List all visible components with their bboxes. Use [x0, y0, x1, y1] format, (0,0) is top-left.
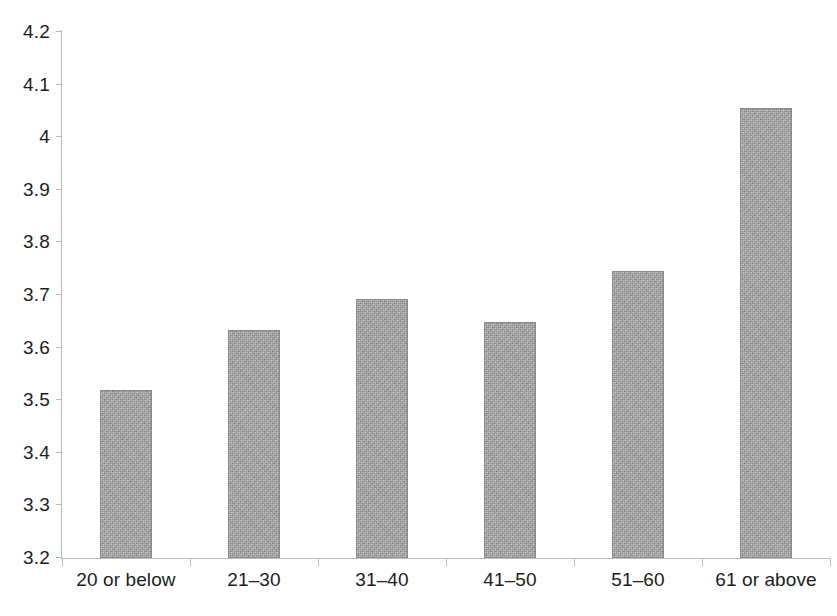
- plot-area: [62, 32, 830, 558]
- x-axis-tick-mark: [318, 558, 319, 566]
- x-axis-tick-label: 31–40: [318, 568, 446, 592]
- x-axis-tick-mark: [702, 558, 703, 566]
- x-axis-tick-label: 41–50: [446, 568, 574, 592]
- bar: [228, 330, 280, 558]
- x-axis-tick-label: 20 or below: [62, 568, 190, 592]
- x-axis-tick-mark: [190, 558, 191, 566]
- y-axis-tick-label: 3.6: [23, 336, 50, 359]
- x-axis-tick-label: 61 or above: [702, 568, 830, 592]
- y-axis-tick-label: 3.8: [23, 230, 50, 253]
- x-axis-tick-mark: [62, 558, 63, 566]
- y-axis-tick-label: 3.3: [23, 493, 50, 516]
- y-axis-tick-label: 3.7: [23, 283, 50, 306]
- bar: [740, 108, 792, 558]
- bar: [612, 271, 664, 558]
- y-axis-tick-label: 3.4: [23, 441, 50, 464]
- x-axis-tick-mark: [830, 558, 831, 566]
- y-axis-tick-label: 4.2: [23, 20, 50, 43]
- x-axis-tick-label: 51–60: [574, 568, 702, 592]
- x-axis-tick-mark: [446, 558, 447, 566]
- y-axis-tick-label: 4.1: [23, 73, 50, 96]
- x-axis-tick-label: 21–30: [190, 568, 318, 592]
- y-axis-tick-label: 3.5: [23, 388, 50, 411]
- bar: [356, 299, 408, 558]
- y-axis-tick-label: 3.9: [23, 178, 50, 201]
- bar: [100, 390, 152, 558]
- x-axis-tick-mark: [574, 558, 575, 566]
- bar-chart-figure: 3.23.33.43.53.63.73.83.944.14.2 20 or be…: [0, 0, 837, 616]
- y-axis-tick-label: 4: [39, 125, 50, 148]
- y-axis-tick-label: 3.2: [23, 546, 50, 569]
- bar: [484, 322, 536, 558]
